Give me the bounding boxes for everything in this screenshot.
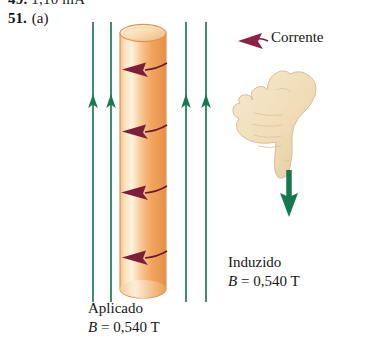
aplicado-equals: = [101, 319, 109, 335]
aplicado-title: Aplicado [88, 299, 160, 318]
figure-page: 49. 1,10 mA 51.(a) [0, 0, 366, 360]
field-line-1 [88, 22, 98, 302]
aplicado-b-symbol: B [88, 319, 97, 335]
field-line-3 [181, 22, 191, 302]
corrente-arrow [238, 33, 268, 49]
aplicado-unit: T [150, 319, 159, 335]
applied-field-lines-left [88, 22, 116, 302]
induzido-magnitude: 0,540 [253, 273, 287, 289]
induzido-title: Induzido [228, 253, 300, 272]
label-aplicado: Aplicado B = 0,540 T [88, 299, 160, 337]
right-hand-illustration [233, 71, 316, 178]
induzido-b-symbol: B [228, 273, 237, 289]
label-induzido: Induzido B = 0,540 T [228, 253, 300, 291]
aplicado-magnitude: 0,540 [113, 319, 147, 335]
field-line-2 [106, 22, 116, 302]
induzido-equals: = [241, 273, 249, 289]
aplicado-value: B = 0,540 T [88, 318, 160, 337]
figure-canvas [0, 0, 366, 360]
applied-field-lines-right [181, 22, 211, 302]
field-line-4 [201, 22, 211, 302]
corrente-text: Corrente [271, 29, 323, 45]
induzido-value: B = 0,540 T [228, 272, 300, 291]
label-corrente: Corrente [271, 28, 323, 47]
induzido-unit: T [290, 273, 299, 289]
